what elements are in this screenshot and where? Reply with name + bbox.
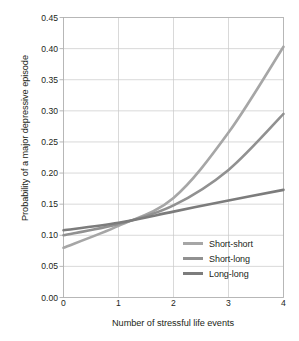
legend-line-swatch — [183, 272, 203, 275]
legend-item: Short-long — [183, 251, 287, 266]
axis-ticks — [60, 18, 64, 298]
chart-figure: Probability of a major depressive episod… — [0, 0, 299, 341]
plot-area — [0, 0, 299, 341]
legend-item-label: Short-short — [209, 239, 253, 249]
x-axis-tick-label: 2 — [162, 298, 186, 308]
x-axis-tick-label: 3 — [217, 298, 241, 308]
legend-item: Short-short — [183, 236, 287, 251]
legend-line-swatch — [183, 242, 203, 245]
legend-item: Long-long — [183, 266, 287, 281]
x-axis-tick-label: 0 — [52, 298, 76, 308]
legend-line-swatch — [183, 257, 203, 260]
x-axis-tick-label: 4 — [272, 298, 296, 308]
x-axis-tick-label: 1 — [107, 298, 131, 308]
chart-legend: Short-shortShort-longLong-long — [183, 236, 287, 281]
x-axis-title: Number of stressful life events — [63, 318, 283, 328]
legend-item-label: Long-long — [209, 269, 249, 279]
legend-item-label: Short-long — [209, 254, 250, 264]
x-axis-tick-labels: 01234 — [0, 298, 299, 310]
